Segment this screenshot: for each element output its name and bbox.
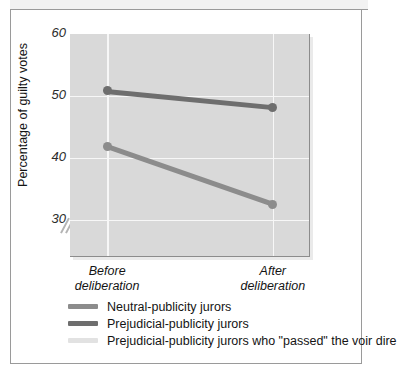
x-axis-tick-label-line: deliberation: [213, 279, 333, 294]
gridline-vertical: [273, 34, 275, 256]
y-axis-tick-labels: 30405060: [38, 0, 66, 380]
legend-item-label: Neutral-publicity jurors: [107, 300, 231, 314]
legend: Neutral-publicity jurorsPrejudicial-publ…: [68, 298, 358, 349]
y-axis-tick-label: 40: [52, 149, 66, 164]
series-data-point: [103, 142, 112, 151]
y-axis-title: Percentage of guilty votes: [16, 25, 30, 205]
legend-color-swatch: [68, 338, 98, 343]
legend-item: Prejudicial-publicity jurors who "passed…: [68, 332, 358, 349]
x-axis-tick-label-line: deliberation: [47, 279, 167, 294]
legend-item: Prejudicial-publicity jurors: [68, 315, 358, 332]
y-axis-tick-label: 60: [52, 25, 66, 40]
x-axis-tick-label: Beforedeliberation: [47, 264, 167, 294]
legend-color-swatch: [68, 304, 98, 309]
x-axis-tick-label-line: After: [213, 264, 333, 279]
y-axis-tick-label: 50: [52, 87, 66, 102]
legend-item-label: Prejudicial-publicity jurors who "passed…: [107, 334, 397, 348]
x-axis-tick-label-line: Before: [47, 264, 167, 279]
legend-item-label: Prejudicial-publicity jurors: [107, 317, 249, 331]
series-data-point: [268, 103, 277, 112]
legend-item: Neutral-publicity jurors: [68, 298, 358, 315]
legend-color-swatch: [68, 321, 98, 326]
x-axis-tick-label: Afterdeliberation: [213, 264, 333, 294]
